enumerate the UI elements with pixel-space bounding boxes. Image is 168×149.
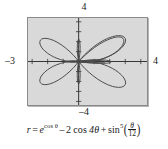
equation-caption: r=ecos θ–2 cos 4θ+sin5(θ12) [0, 122, 168, 139]
equation-equals: = [31, 124, 40, 135]
polar-plot-figure: 4 –3 4 –4 [0, 0, 168, 149]
equation-cos: cos [73, 124, 87, 135]
equation-e-exponent: cos θ [44, 122, 58, 129]
equation-fraction-numerator: θ [128, 122, 136, 130]
equation-two: 2 [66, 124, 71, 135]
equation-fraction: θ12 [128, 122, 136, 139]
plot-canvas [28, 18, 147, 105]
equation-fraction-denominator: 12 [128, 129, 136, 138]
equation-paren-open: ( [124, 124, 128, 135]
axis-label-left: –3 [5, 56, 15, 66]
equation-sin: sin [108, 124, 120, 135]
equation-plus: + [99, 124, 108, 135]
axis-label-top: 4 [0, 2, 168, 12]
equation-paren-close: ) [137, 124, 141, 135]
axis-label-right: 4 [153, 56, 158, 66]
equation-four-theta: 4θ [89, 124, 99, 135]
equation-minus: – [58, 124, 66, 135]
plot-frame [27, 17, 148, 106]
axis-label-bottom: –4 [0, 107, 168, 117]
